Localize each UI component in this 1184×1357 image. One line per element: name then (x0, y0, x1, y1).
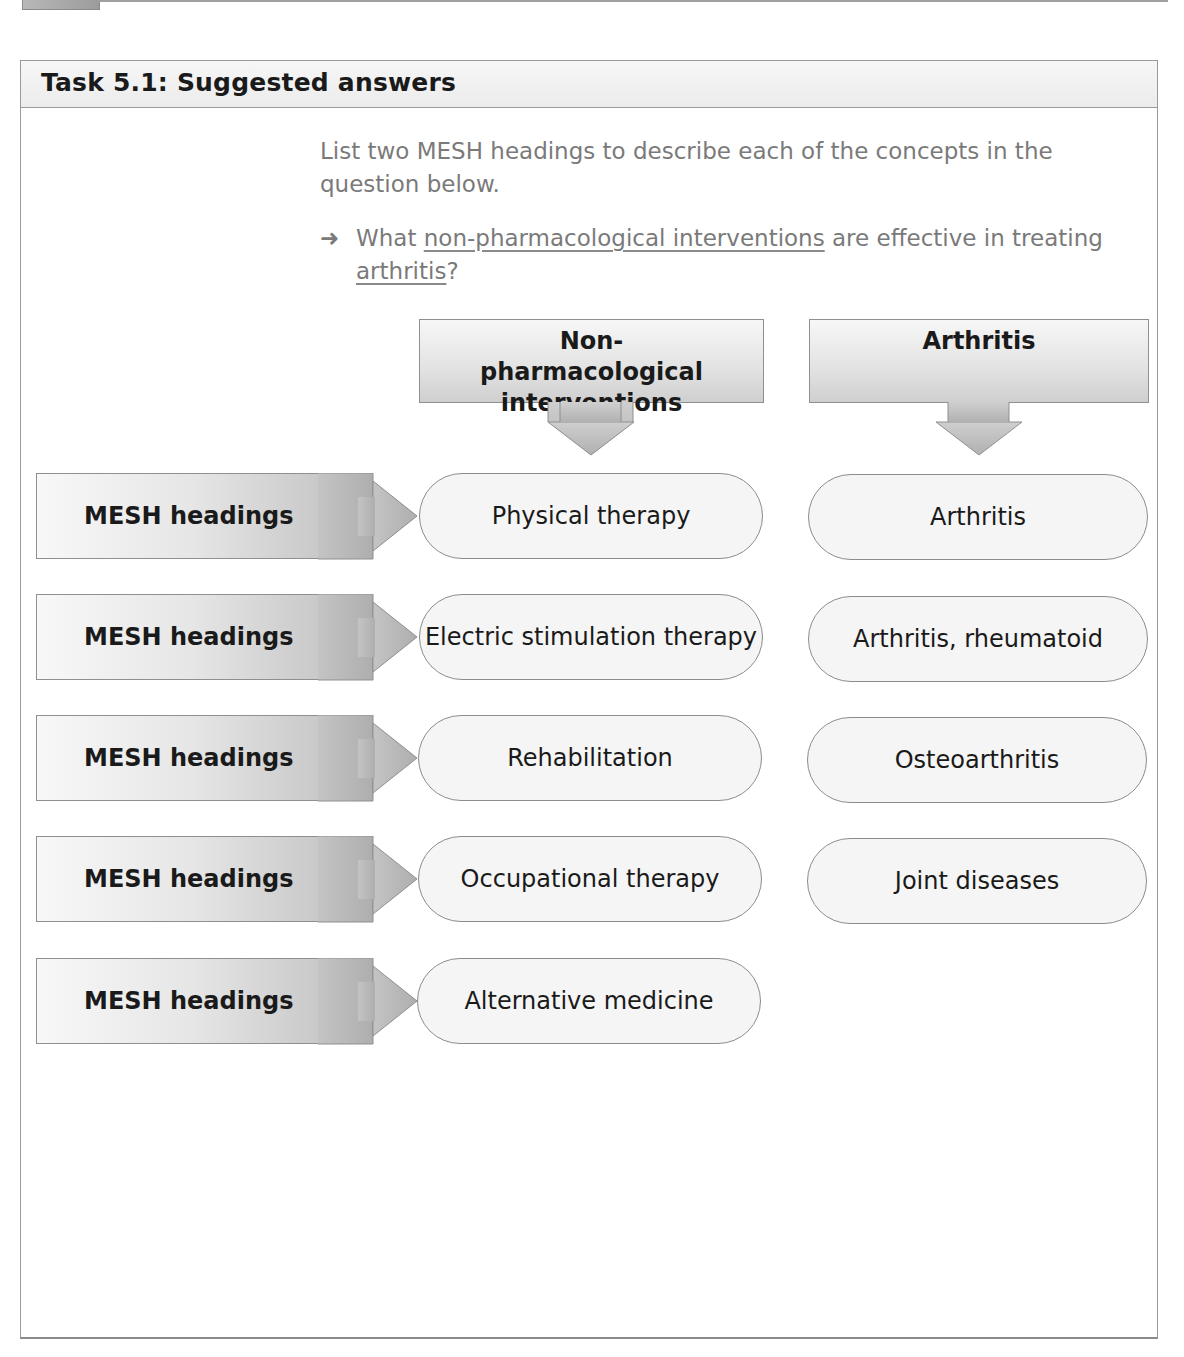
mesh-term-rehabilitation: Rehabilitation (418, 715, 762, 801)
mesh-row: MESH headings (36, 836, 426, 926)
mesh-term-osteoarthritis: Osteoarthritis (807, 717, 1147, 803)
mesh-headings-label: MESH headings (36, 594, 319, 680)
right-arrow-icon (318, 473, 420, 563)
concept-header-label: Arthritis (922, 326, 1035, 357)
mesh-term-arthritis: Arthritis (808, 474, 1148, 560)
mesh-term-occupational-therapy: Occupational therapy (418, 836, 762, 922)
down-arrow-icon (934, 402, 1024, 458)
mesh-term-physical-therapy: Physical therapy (419, 473, 763, 559)
right-arrow-icon (318, 836, 420, 926)
question: ➜ What non-pharmacological interventions… (320, 222, 1120, 288)
mesh-row: MESH headings (36, 594, 426, 684)
mesh-term-arthritis-rheumatoid: Arthritis, rheumatoid (808, 596, 1148, 682)
mesh-row: MESH headings (36, 473, 426, 563)
down-arrow-icon (546, 402, 636, 458)
top-rule (98, 0, 1168, 2)
mesh-headings-label: MESH headings (36, 473, 319, 559)
mesh-headings-label: MESH headings (36, 715, 319, 801)
right-arrow-icon (318, 594, 420, 684)
right-arrow-icon (318, 715, 420, 805)
mesh-term-joint-diseases: Joint diseases (807, 838, 1147, 924)
mesh-headings-label: MESH headings (36, 836, 319, 922)
question-suffix: ? (446, 258, 458, 284)
question-text: What non-pharmacological interventions a… (356, 222, 1120, 288)
panel-title: Task 5.1: Suggested answers (41, 68, 456, 97)
mesh-row: MESH headings (36, 715, 426, 805)
panel-header: Task 5.1: Suggested answers (21, 61, 1157, 108)
intro-text: List two MESH headings to describe each … (320, 135, 1100, 201)
right-arrow-icon (318, 958, 420, 1048)
concept-1-underlined: non-pharmacological interventions (424, 225, 825, 251)
mesh-term-alternative-medicine: Alternative medicine (417, 958, 761, 1044)
concept-2-underlined: arthritis (356, 258, 446, 284)
question-middle: are effective in treating (825, 225, 1103, 251)
concept-header-non-pharmacological: Non-pharmacological interventions (419, 319, 764, 403)
concept-header-arthritis: Arthritis (809, 319, 1149, 403)
mesh-headings-label: MESH headings (36, 958, 319, 1044)
mesh-term-electric-stimulation-therapy: Electric stimulation therapy (419, 594, 763, 680)
right-arrow-icon: ➜ (320, 222, 350, 255)
page-corner-tab (22, 0, 100, 10)
question-prefix: What (356, 225, 424, 251)
mesh-row: MESH headings (36, 958, 426, 1048)
